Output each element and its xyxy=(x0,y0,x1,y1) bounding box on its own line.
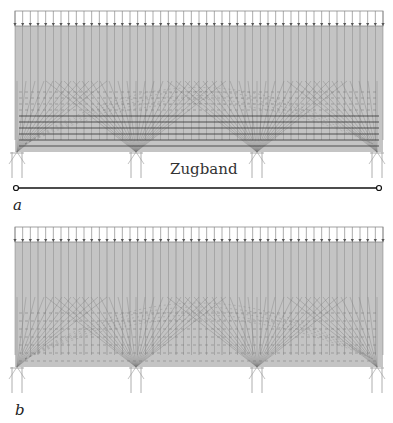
tension-tie xyxy=(14,186,382,191)
trajectory-diagram xyxy=(0,0,393,423)
tie-label: Zugband xyxy=(170,160,238,178)
panel-a xyxy=(9,11,385,178)
tie-end-right xyxy=(377,186,382,191)
panel-label-b: b xyxy=(15,401,25,419)
tie-end-left xyxy=(14,186,19,191)
panel-label-a: a xyxy=(13,196,22,214)
panel-b xyxy=(9,227,385,393)
